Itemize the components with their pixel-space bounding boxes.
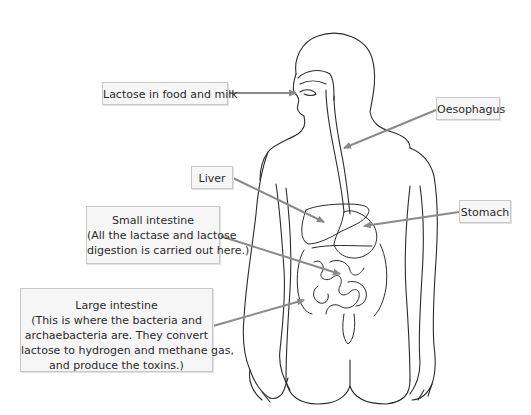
- arrow-stomach: [364, 212, 459, 226]
- rectum: [343, 314, 355, 344]
- label-oesophagus: Oesophagus: [436, 97, 500, 120]
- oesophagus-tract: [298, 71, 350, 214]
- label-text: Stomach: [460, 205, 510, 220]
- label-text: Oesophagus: [437, 102, 499, 117]
- arrow-large-intestine: [213, 300, 304, 326]
- right-arm-outer: [410, 148, 437, 400]
- palate: [300, 81, 326, 84]
- nasal-cavity: [298, 71, 334, 100]
- left-arm-inner: [276, 184, 290, 390]
- label-text: digestion is carried out here.): [87, 243, 219, 258]
- leg-split: [350, 360, 410, 404]
- label-lactose-in-food: Lactose in food and milk: [102, 82, 228, 105]
- label-large-intestine: Large intestine (This is where the bacte…: [20, 288, 213, 372]
- label-stomach: Stomach: [459, 200, 511, 223]
- torso-left: [286, 188, 350, 404]
- label-text: (All the lactase and lactose: [87, 228, 219, 243]
- label-text: Liver: [192, 171, 232, 186]
- label-text: archaebacteria are. They convert: [21, 328, 212, 343]
- arrow-oesophagus: [344, 110, 436, 148]
- label-text: (This is where the bacteria and: [21, 313, 212, 328]
- stomach-outline: [334, 211, 377, 258]
- face-outline: [260, 74, 305, 180]
- torso-right: [405, 186, 410, 380]
- label-text: Lactose in food and milk: [103, 87, 227, 102]
- label-small-intestine: Small intestine (All the lactase and lac…: [86, 206, 220, 264]
- label-title: Large intestine: [21, 298, 212, 313]
- label-liver: Liver: [191, 166, 233, 189]
- arrow-liver: [233, 178, 324, 222]
- label-text: lactose to hydrogen and methane gas,: [21, 343, 212, 358]
- mouth: [300, 90, 316, 96]
- label-title: Small intestine: [87, 213, 219, 228]
- label-text: and produce the toxins.): [21, 358, 212, 373]
